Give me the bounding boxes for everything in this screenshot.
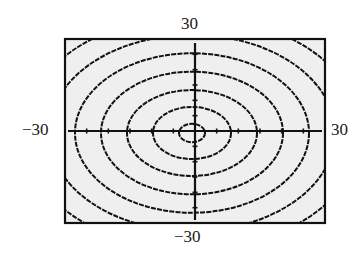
contour-plot: [0, 0, 361, 261]
